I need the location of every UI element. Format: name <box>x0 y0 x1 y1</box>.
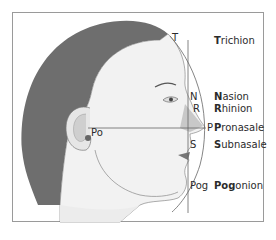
label-t: T <box>172 33 178 43</box>
name-pogonion: Pogonion <box>214 181 263 191</box>
label-p: P <box>207 123 213 133</box>
label-r: R <box>193 104 200 114</box>
name-pronasale: Pronasale <box>214 123 264 133</box>
name-rhinion: Rhinion <box>214 104 252 114</box>
label-po: Po <box>91 128 103 138</box>
name-trichion: Trichion <box>214 36 255 46</box>
label-pog: Pog <box>190 181 208 191</box>
name-subnasale: Subnasale <box>214 140 267 150</box>
iris <box>169 98 173 102</box>
label-s: S <box>190 140 196 150</box>
label-n: N <box>190 92 197 102</box>
name-nasion: Nasion <box>214 92 249 102</box>
